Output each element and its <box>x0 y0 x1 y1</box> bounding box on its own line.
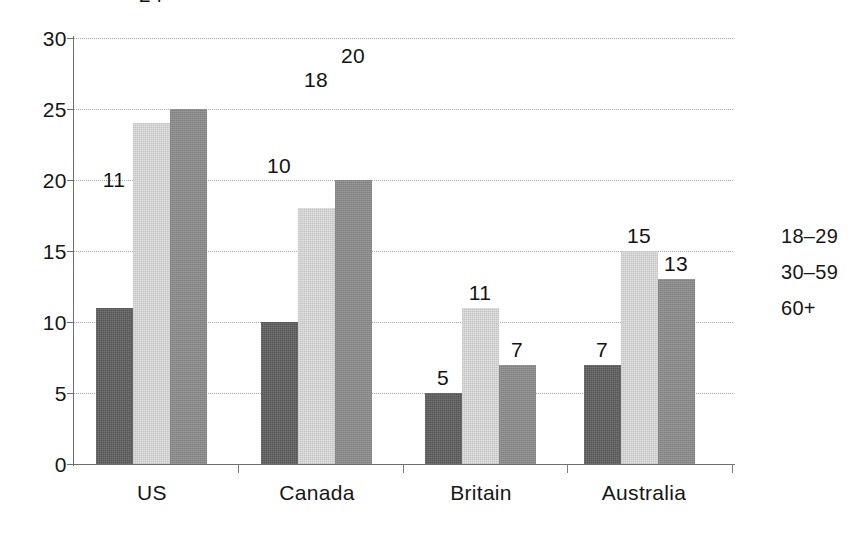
y-tick-label-0: 0 <box>21 454 67 475</box>
bar-australia-60-plus[interactable] <box>658 279 695 464</box>
x-axis-label-us: US <box>96 481 208 505</box>
legend-label-18-29: 18–29 <box>781 226 838 246</box>
y-tick-mark-5 <box>67 393 74 394</box>
legend: 18–29 30–59 60+ <box>756 228 866 336</box>
bar-label-us-30-59: 24 <box>127 0 175 5</box>
legend-label-30-59: 30–59 <box>781 262 838 282</box>
bar-us-60-plus[interactable] <box>170 109 207 464</box>
bar-canada-60-plus[interactable] <box>335 180 372 464</box>
y-tick-mark-20 <box>67 180 74 181</box>
bar-australia-18-29[interactable] <box>584 365 621 464</box>
y-tick-mark-0 <box>67 464 74 465</box>
bar-label-canada-30-59: 18 <box>292 69 340 90</box>
y-tick-label-10: 10 <box>21 312 67 333</box>
legend-item-18-29[interactable]: 18–29 <box>756 228 866 264</box>
bar-chart: 11 24 25 10 18 20 5 11 7 7 15 13 30 25 2… <box>0 0 866 537</box>
plot-area: 11 24 25 10 18 20 5 11 7 7 15 13 <box>73 38 733 464</box>
x-axis-label-britain: Britain <box>425 481 537 505</box>
bar-label-canada-60-plus: 20 <box>329 45 377 66</box>
x-tick-mark-4 <box>732 464 733 473</box>
bar-britain-30-59[interactable] <box>462 308 499 464</box>
y-tick-label-5: 5 <box>21 383 67 404</box>
bar-label-canada-18-29: 10 <box>255 155 303 176</box>
bar-us-18-29[interactable] <box>96 308 133 464</box>
y-tick-mark-15 <box>67 251 74 252</box>
x-axis-line <box>73 464 735 465</box>
bar-label-australia-30-59: 15 <box>615 225 663 246</box>
x-tick-mark-3 <box>567 464 568 473</box>
legend-swatch-icon-30-59 <box>756 268 767 279</box>
legend-item-30-59[interactable]: 30–59 <box>756 264 866 300</box>
bar-label-us-18-29: 11 <box>90 169 138 190</box>
y-tick-label-20: 20 <box>21 170 67 191</box>
y-tick-label-15: 15 <box>21 241 67 262</box>
bar-britain-18-29[interactable] <box>425 393 462 464</box>
y-axis-labels: 30 25 20 15 10 5 0 <box>0 0 67 537</box>
legend-swatch-icon-18-29 <box>756 232 767 243</box>
bar-australia-30-59[interactable] <box>621 251 658 464</box>
legend-label-60-plus: 60+ <box>781 298 816 318</box>
bar-britain-60-plus[interactable] <box>499 365 536 464</box>
bar-canada-18-29[interactable] <box>261 322 298 464</box>
gridline-30 <box>73 38 733 39</box>
bar-label-britain-30-59: 11 <box>456 282 504 303</box>
bar-label-australia-18-29: 7 <box>578 339 626 360</box>
x-tick-mark-1 <box>238 464 239 473</box>
bar-us-30-59[interactable] <box>133 123 170 464</box>
bar-label-britain-60-plus: 7 <box>493 339 541 360</box>
legend-item-60-plus[interactable]: 60+ <box>756 300 866 336</box>
y-tick-mark-10 <box>67 322 74 323</box>
x-tick-mark-2 <box>403 464 404 473</box>
y-tick-label-30: 30 <box>21 28 67 49</box>
bar-label-australia-60-plus: 13 <box>652 253 700 274</box>
y-tick-label-25: 25 <box>21 99 67 120</box>
x-axis-label-australia: Australia <box>584 481 704 505</box>
bar-canada-30-59[interactable] <box>298 208 335 464</box>
legend-swatch-icon-60-plus <box>756 304 767 315</box>
x-axis-label-canada: Canada <box>261 481 373 505</box>
y-tick-mark-25 <box>67 109 74 110</box>
y-tick-mark-30 <box>67 38 74 39</box>
bar-label-britain-18-29: 5 <box>419 367 467 388</box>
